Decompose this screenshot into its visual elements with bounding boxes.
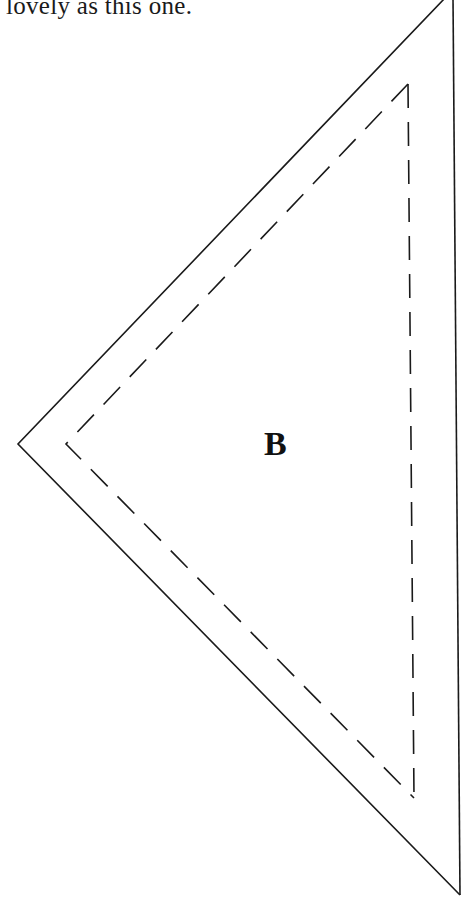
- outer-right-edge: [453, 0, 460, 895]
- pattern-piece-b: [0, 0, 466, 918]
- inner-seam-right-edge: [408, 84, 414, 798]
- outer-cut-line: [18, 0, 460, 895]
- inner-seam-line: [66, 84, 414, 798]
- piece-label: B: [264, 425, 287, 463]
